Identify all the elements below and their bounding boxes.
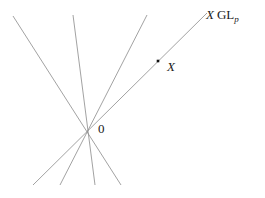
ray-label-subscript: p — [234, 14, 239, 24]
point-x-label: X — [167, 60, 175, 73]
line-2 — [73, 15, 95, 185]
ray-label-prefix: X — [206, 7, 214, 22]
origin-label: 0 — [98, 122, 105, 135]
figure-canvas: 0 X XGLp — [0, 0, 265, 198]
point-marker-group — [157, 60, 160, 63]
ray-label: XGLp — [206, 8, 239, 24]
line-3 — [60, 15, 147, 185]
line-diagram — [0, 0, 265, 198]
ray-label-group: GL — [217, 7, 234, 22]
line-4 — [33, 13, 207, 185]
line-1 — [13, 16, 121, 185]
point-x-marker — [157, 60, 160, 63]
lines-group — [13, 13, 207, 185]
